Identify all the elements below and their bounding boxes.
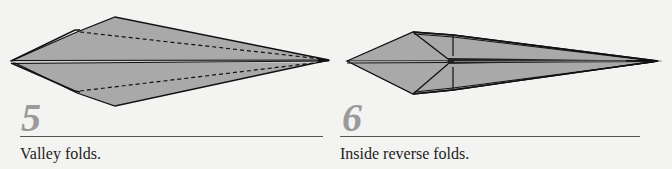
step-6-diagram [336, 0, 672, 120]
step-divider [340, 136, 640, 137]
step-6: 6 Inside reverse folds. [336, 0, 672, 169]
step-5-diagram [0, 0, 336, 120]
step-number: 5 [21, 98, 41, 138]
step-5: 5 Valley folds. [0, 0, 336, 169]
step-caption: Valley folds. [20, 145, 101, 163]
step-caption: Inside reverse folds. [340, 145, 469, 163]
step-number: 6 [342, 98, 362, 138]
step-divider [20, 136, 323, 137]
